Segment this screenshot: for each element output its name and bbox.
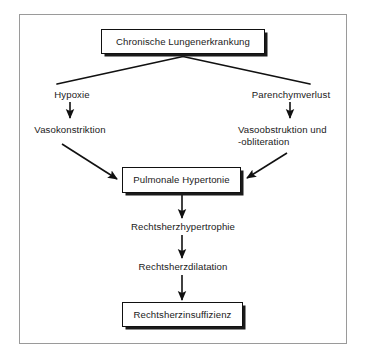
node-vasoobstruktion: Vasoobstruktion und -obliteration	[238, 124, 342, 147]
node-vasoobstruktion-label-line1: Vasoobstruktion und	[238, 124, 327, 135]
node-vasokonstriktion: Vasokonstriktion	[14, 124, 126, 136]
node-rechtsherzdilatation: Rechtsherzdilatation	[110, 261, 256, 273]
node-pulmonale-hypertonie-label: Pulmonale Hypertonie	[133, 174, 229, 185]
node-pulmonale-hypertonie: Pulmonale Hypertonie	[122, 167, 241, 193]
node-parenchymverlust: Parenchymverlust	[238, 89, 344, 101]
node-hypoxie-label: Hypoxie	[54, 89, 89, 100]
node-rechtsherzinsuffizienz: Rechtsherzinsuffizienz	[122, 302, 243, 327]
node-chronische-lungenerkrankung: Chronische Lungenerkrankung	[101, 29, 265, 54]
node-rechtsherzhypertrophie: Rechtsherzhypertrophie	[110, 221, 256, 233]
node-rechtsherzinsuffizienz-label: Rechtsherzinsuffizienz	[133, 309, 231, 320]
node-parenchymverlust-label: Parenchymverlust	[252, 89, 330, 100]
flowchart-diagram: Chronische Lungenerkrankung Hypoxie Pare…	[0, 0, 366, 358]
node-rechtsherzdilatation-label: Rechtsherzdilatation	[139, 261, 228, 272]
node-hypoxie: Hypoxie	[32, 89, 112, 101]
node-chronische-lungenerkrankung-label: Chronische Lungenerkrankung	[116, 36, 250, 47]
node-vasokonstriktion-label: Vasokonstriktion	[34, 124, 105, 135]
node-vasoobstruktion-label-line2: -obliteration	[238, 136, 289, 147]
node-rechtsherzhypertrophie-label: Rechtsherzhypertrophie	[131, 221, 235, 232]
